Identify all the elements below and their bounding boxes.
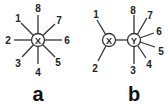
diagram-b: X Y 1 2 8 7 6 5 4 3 b [92,5,164,105]
edge-label-2: 2 [92,63,98,74]
edge-label-6: 6 [64,35,70,46]
edge-label-2: 2 [5,35,11,46]
edge-label-3: 3 [15,58,21,69]
edge-label-5: 5 [158,46,164,57]
edge-label-6: 6 [156,26,162,37]
edge-label-1: 1 [15,13,21,24]
edge-label-8: 8 [35,3,41,14]
edge-label-7: 7 [147,10,153,21]
edge-label-3: 3 [130,65,136,76]
diagram-a: X 1 2 3 4 5 6 7 8 a [5,3,70,105]
node-x-label: X [106,36,112,46]
node-y-label: Y [131,36,137,46]
node-x-label: X [35,36,41,46]
edge-label-4: 4 [35,67,41,78]
edge-label-8: 8 [130,5,136,16]
edge-label-4: 4 [146,59,152,70]
edge-label-7: 7 [56,15,62,26]
caption-b: b [128,83,140,105]
edge-label-5: 5 [55,57,61,68]
edge-label-1: 1 [93,9,99,20]
graph-diagrams: X 1 2 3 4 5 6 7 8 a X Y 1 2 8 7 6 5 4 3 … [0,0,168,106]
caption-a: a [32,83,44,105]
